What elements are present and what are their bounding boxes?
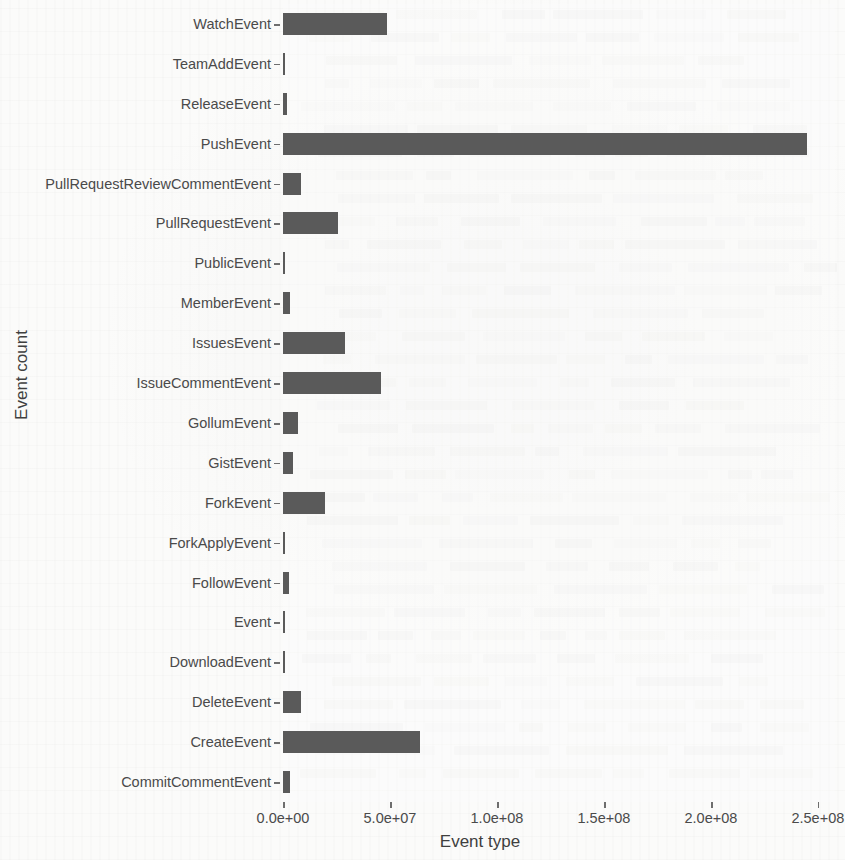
x-tick-label-1.5e+08: 1.5e+08 (578, 810, 631, 826)
y-tick-mark (274, 782, 280, 784)
y-tick-label-FollowEvent: FollowEvent (192, 574, 271, 592)
bar-MemberEvent (283, 292, 835, 314)
bar-fill (283, 133, 807, 155)
bar-fill (283, 611, 285, 633)
bar-WatchEvent (283, 13, 835, 35)
bar-fill (283, 292, 290, 314)
bar-TeamAddEvent (283, 53, 835, 75)
bar-IssuesEvent (283, 332, 835, 354)
bar-chart: Event count WatchEventTeamAddEventReleas… (0, 0, 845, 860)
bar-fill (283, 572, 289, 594)
y-tick-label-ForkEvent: ForkEvent (205, 494, 271, 512)
y-tick-label-WatchEvent: WatchEvent (193, 15, 271, 33)
bar-DeleteEvent (283, 691, 835, 713)
x-tick-mark (818, 802, 820, 808)
bar-DownloadEvent (283, 651, 835, 673)
x-tick-mark (497, 802, 499, 808)
x-tick-mark (390, 802, 392, 808)
y-tick-mark (274, 303, 280, 305)
y-tick-label-PullRequestReviewCommentEvent: PullRequestReviewCommentEvent (45, 175, 271, 193)
y-tick-label-GistEvent: GistEvent (208, 454, 271, 472)
bar-Event (283, 611, 835, 633)
y-tick-mark (274, 622, 280, 624)
bar-fill (283, 532, 285, 554)
bar-ForkEvent (283, 492, 835, 514)
x-axis-title: Event type (440, 832, 520, 852)
bar-ReleaseEvent (283, 93, 835, 115)
x-tick-mark (283, 802, 285, 808)
y-tick-label-PublicEvent: PublicEvent (194, 254, 271, 272)
y-tick-mark (274, 423, 280, 425)
bar-CreateEvent (283, 731, 835, 753)
y-tick-label-ReleaseEvent: ReleaseEvent (181, 95, 271, 113)
y-tick-label-CreateEvent: CreateEvent (190, 733, 271, 751)
bar-fill (283, 452, 293, 474)
bar-fill (283, 332, 345, 354)
y-tick-label-DownloadEvent: DownloadEvent (169, 653, 271, 671)
bar-PublicEvent (283, 252, 835, 274)
x-axis-title-wrap: Event type (0, 832, 845, 852)
bar-fill (283, 93, 287, 115)
y-tick-mark (274, 343, 280, 345)
bar-fill (283, 173, 301, 195)
bar-GistEvent (283, 452, 835, 474)
bar-fill (283, 372, 381, 394)
y-tick-mark (274, 662, 280, 664)
y-tick-label-PullRequestEvent: PullRequestEvent (156, 214, 271, 232)
y-tick-mark (274, 104, 280, 106)
y-tick-label-CommitCommentEvent: CommitCommentEvent (121, 773, 271, 791)
y-tick-label-ForkApplyEvent: ForkApplyEvent (169, 534, 271, 552)
y-tick-mark (274, 223, 280, 225)
y-tick-label-TeamAddEvent: TeamAddEvent (173, 55, 271, 73)
x-tick-label-1.0e+08: 1.0e+08 (471, 810, 524, 826)
y-tick-mark (274, 742, 280, 744)
bar-fill (283, 252, 285, 274)
x-tick-label-2.5e+08: 2.5e+08 (791, 810, 844, 826)
y-tick-mark (274, 64, 280, 66)
y-tick-mark (274, 702, 280, 704)
y-tick-mark (274, 503, 280, 505)
x-tick-mark (711, 802, 713, 808)
y-tick-label-GollumEvent: GollumEvent (188, 414, 271, 432)
x-tick-mark (604, 802, 606, 808)
y-tick-mark (274, 263, 280, 265)
bar-fill (283, 492, 325, 514)
bar-fill (283, 412, 298, 434)
bar-fill (283, 212, 338, 234)
bar-fill (283, 691, 301, 713)
y-tick-mark (274, 463, 280, 465)
bar-PullRequestEvent (283, 212, 835, 234)
y-tick-mark (274, 144, 280, 146)
bar-FollowEvent (283, 572, 835, 594)
y-axis-tick-labels: WatchEventTeamAddEventReleaseEventPushEv… (0, 4, 283, 802)
x-axis: 0.0e+005.0e+071.0e+081.5e+082.0e+082.5e+… (283, 802, 835, 836)
y-tick-label-IssuesEvent: IssuesEvent (192, 334, 271, 352)
y-tick-mark (274, 24, 280, 26)
x-tick-label-2.0e+08: 2.0e+08 (684, 810, 737, 826)
bar-fill (283, 651, 285, 673)
y-tick-label-PushEvent: PushEvent (201, 135, 271, 153)
bar-CommitCommentEvent (283, 771, 835, 793)
bar-ForkApplyEvent (283, 532, 835, 554)
bar-PushEvent (283, 133, 835, 155)
bar-PullRequestReviewCommentEvent (283, 173, 835, 195)
bar-GollumEvent (283, 412, 835, 434)
y-tick-label-DeleteEvent: DeleteEvent (192, 693, 271, 711)
bar-fill (283, 731, 420, 753)
bar-fill (283, 53, 285, 75)
y-tick-label-IssueCommentEvent: IssueCommentEvent (136, 374, 271, 392)
y-tick-mark (274, 543, 280, 545)
y-tick-mark (274, 184, 280, 186)
plot-area (283, 4, 835, 802)
x-tick-label-5.0e+07: 5.0e+07 (364, 810, 417, 826)
x-tick-label-0.0e+00: 0.0e+00 (257, 810, 310, 826)
y-tick-mark (274, 383, 280, 385)
y-tick-mark (274, 583, 280, 585)
y-tick-label-Event: Event (234, 613, 271, 631)
y-tick-label-MemberEvent: MemberEvent (181, 294, 271, 312)
bar-fill (283, 13, 387, 35)
bar-IssueCommentEvent (283, 372, 835, 394)
bar-fill (283, 771, 290, 793)
